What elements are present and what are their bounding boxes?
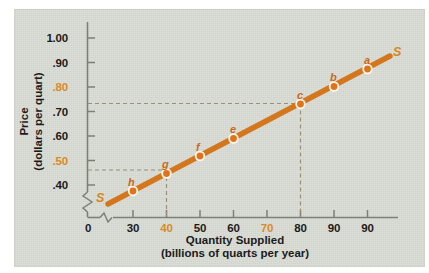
y-tick-marks bbox=[88, 38, 96, 185]
y-axis-title: Price (dollars per quart) bbox=[18, 47, 45, 197]
x-tick-label-2: 40 bbox=[154, 222, 180, 234]
y-tick-label-1: 1.00 bbox=[24, 32, 68, 44]
x-tick-marks bbox=[133, 210, 368, 218]
x-axis-title-line1: Quantity Supplied bbox=[95, 234, 375, 247]
y-tick-label-5: .60 bbox=[24, 130, 68, 142]
point-label-c: c bbox=[297, 89, 303, 101]
point-label-g: g bbox=[162, 158, 169, 170]
y-tick-label-3: .80 bbox=[24, 81, 68, 93]
point-label-b: b bbox=[330, 71, 337, 83]
point-label-a: a bbox=[364, 54, 370, 66]
x-tick-label-4: 60 bbox=[221, 222, 247, 234]
curve-start-label: S bbox=[96, 191, 104, 205]
point-label-f: f bbox=[196, 141, 200, 153]
x-origin-label: 0 bbox=[75, 222, 101, 234]
supply-curve-line bbox=[108, 56, 390, 204]
y-tick-label-7: .40 bbox=[24, 179, 68, 191]
x-tick-label-7: 90 bbox=[321, 222, 347, 234]
y-tick-label-6: .50 bbox=[24, 155, 68, 167]
curve-end-label: S bbox=[393, 45, 401, 59]
x-tick-label-6: 80 bbox=[288, 222, 314, 234]
y-tick-label-2: .90 bbox=[24, 57, 68, 69]
x-tick-label-3: 50 bbox=[187, 222, 213, 234]
x-tick-label-1: 30 bbox=[120, 222, 146, 234]
y-axis-break-icon bbox=[83, 192, 92, 212]
y-axis-title-line1: Price bbox=[18, 47, 32, 197]
supply-curve-figure: Price (dollars per quart) 1.00 .90 .80 .… bbox=[0, 0, 429, 273]
point-label-h: h bbox=[128, 176, 135, 188]
x-tick-label-8: 90 bbox=[355, 222, 381, 234]
x-axis-title: Quantity Supplied (billions of quarts pe… bbox=[95, 234, 375, 260]
x-axis-title-line2: (billions of quarts per year) bbox=[95, 247, 375, 260]
point-label-e: e bbox=[230, 123, 236, 135]
x-axis-break-icon bbox=[100, 213, 112, 222]
y-axis-title-line2: (dollars per quart) bbox=[31, 47, 45, 197]
y-tick-label-4: .70 bbox=[24, 106, 68, 118]
x-tick-label-5: 70 bbox=[254, 222, 280, 234]
